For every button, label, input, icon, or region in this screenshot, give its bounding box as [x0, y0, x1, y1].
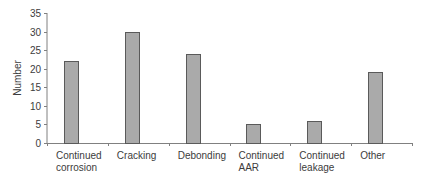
y-tick-label: 5 [35, 119, 41, 130]
y-tick-label: 25 [30, 45, 42, 56]
x-axis-labels: ContinuedcorrosionCrackingDebondingConti… [56, 150, 386, 173]
bar [126, 33, 140, 144]
y-tick-label: 20 [30, 64, 42, 75]
y-tick-label: 0 [35, 138, 41, 149]
bar [369, 73, 383, 144]
x-tick-label: AAR [239, 162, 260, 173]
x-tick-label: corrosion [56, 162, 97, 173]
bars [65, 33, 383, 144]
x-tick-label: Continued [239, 150, 285, 161]
x-tick-label: Other [360, 150, 386, 161]
x-tick-label: leakage [299, 162, 334, 173]
y-tick-label: 30 [30, 27, 42, 38]
x-axis [47, 143, 413, 146]
y-tick-label: 10 [30, 101, 42, 112]
x-tick-label: Debonding [178, 150, 226, 161]
x-tick-label: Continued [56, 150, 102, 161]
bar [65, 62, 79, 144]
y-axis: 05101520253035 [30, 8, 47, 149]
bar [308, 122, 322, 144]
y-axis-label: Number [12, 60, 23, 96]
bar [247, 125, 261, 144]
y-tick-label: 35 [30, 8, 42, 19]
y-tick-label: 15 [30, 82, 42, 93]
bar [187, 55, 201, 144]
x-tick-label: Cracking [117, 150, 156, 161]
x-tick-label: Continued [299, 150, 345, 161]
bar-chart: Number 05101520253035 Continuedcorrosion… [0, 0, 426, 182]
